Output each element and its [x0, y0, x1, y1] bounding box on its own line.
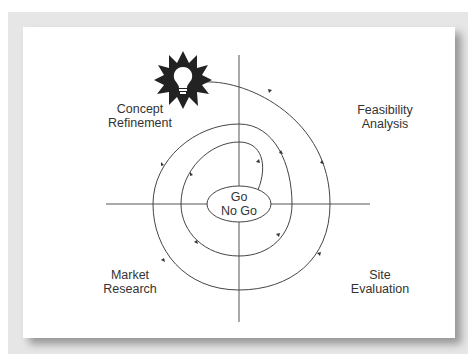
label-line: Feasibility — [345, 103, 425, 117]
direction-arrows — [161, 89, 324, 262]
label-line: Analysis — [345, 117, 425, 131]
label-market-research: Market Research — [90, 268, 170, 296]
center-label: Go No Go — [214, 190, 264, 218]
label-line: Market — [90, 268, 170, 282]
label-line: Refinement — [100, 116, 180, 130]
label-concept-refinement: Concept Refinement — [100, 102, 180, 130]
center-label-line2: No Go — [214, 204, 264, 218]
label-site-evaluation: Site Evaluation — [340, 268, 420, 296]
center-label-line1: Go — [214, 190, 264, 204]
lightbulb-starburst-icon — [154, 51, 212, 109]
label-line: Research — [90, 282, 170, 296]
label-feasibility-analysis: Feasibility Analysis — [345, 103, 425, 131]
label-line: Evaluation — [340, 282, 420, 296]
label-line: Site — [340, 268, 420, 282]
label-line: Concept — [100, 102, 180, 116]
spiral-diagram — [0, 0, 476, 360]
